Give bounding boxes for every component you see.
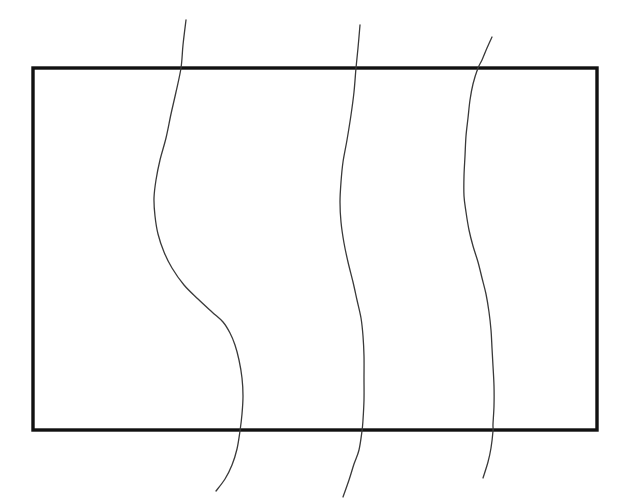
figure-background [0, 0, 625, 501]
line-drawing-figure [0, 0, 625, 501]
